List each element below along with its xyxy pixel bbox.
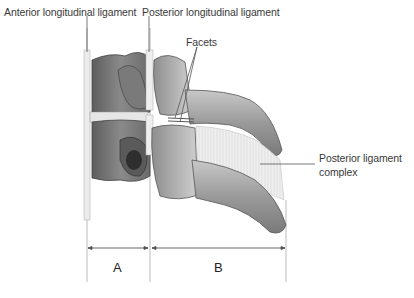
anterior-ligament (84, 50, 90, 220)
column-label-b: B (214, 260, 223, 275)
dimension-arrow (88, 247, 285, 250)
lamina-lower (152, 125, 198, 199)
posterior-ligament (146, 50, 153, 110)
label-facets: Facets (186, 36, 217, 48)
lamina-upper (154, 55, 192, 115)
column-label-a: A (113, 260, 122, 275)
label-posterior-ligament-complex-line2: complex (319, 166, 357, 178)
label-posterior-ligament-complex-line1: Posterior ligament (319, 152, 402, 164)
label-posterior-longitudinal-ligament: Posterior longitudinal ligament (142, 6, 280, 18)
label-anterior-longitudinal-ligament: Anterior longitudinal ligament (4, 6, 136, 18)
